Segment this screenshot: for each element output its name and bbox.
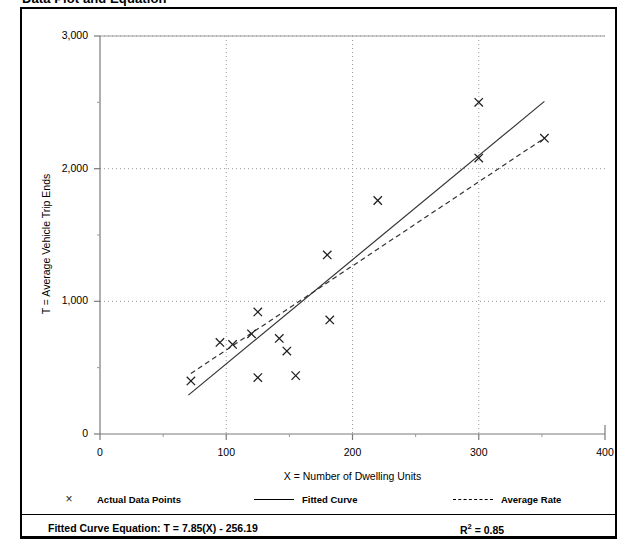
x-tick-label: 400 [585,446,625,458]
x-marker-icon: × [48,493,90,505]
fitted-curve-line [188,101,544,395]
dashed-line-icon [452,493,494,505]
data-point-x-icon [291,371,299,379]
fitted-curve-equation: Fitted Curve Equation: T = 7.85(X) - 256… [48,522,258,534]
data-point-x-icon [540,134,548,142]
chart-legend: × Actual Data Points Fitted Curve Averag… [20,489,617,511]
data-point-x-icon [216,338,224,346]
data-point-x-icon [475,98,483,106]
data-point-x-icon [275,334,283,342]
data-point-x-icon [247,330,255,338]
legend-item-fitted-curve: Fitted Curve [253,493,357,505]
x-axis-label: X = Number of Dwelling Units [100,470,605,482]
data-point-x-icon [323,251,331,259]
data-point-x-icon [326,316,334,324]
bottom-rule [20,537,617,539]
data-point-x-icon [187,377,195,385]
legend-label: Actual Data Points [97,494,181,505]
trend-lines [188,101,544,395]
data-point-x-icon [254,373,262,381]
gridlines [100,36,605,434]
legend-label: Average Rate [501,494,561,505]
equation-separator [22,514,615,515]
r-squared-value: R2 = 0.85 [460,522,504,536]
chart-page: Data Plot and Equation 01,0002,0003,0000… [0,0,635,553]
legend-item-actual-data-points: × Actual Data Points [48,493,181,505]
axes [100,36,605,434]
legend-item-average-rate: Average Rate [452,493,561,505]
average-rate-line [191,138,545,373]
y-tick-label: 0 [48,428,88,438]
data-point-x-icon [254,308,262,316]
x-tick-label: 300 [459,446,499,458]
x-tick-label: 100 [206,446,246,458]
data-point-markers [187,98,549,385]
r-squared-prefix: R [460,524,468,536]
x-tick-label: 0 [80,446,120,458]
axis-ticks [94,36,605,440]
x-tick-label: 200 [333,446,373,458]
solid-line-icon [253,493,295,505]
data-point-x-icon [374,196,382,204]
y-tick-label: 2,000 [48,163,88,173]
data-point-x-icon [283,347,291,355]
r-squared-number: = 0.85 [472,524,504,536]
y-tick-label: 1,000 [48,295,88,305]
y-axis-label: T = Average Vehicle Trip Ends [40,154,52,334]
legend-label: Fitted Curve [302,494,357,505]
y-tick-label: 3,000 [48,30,88,40]
